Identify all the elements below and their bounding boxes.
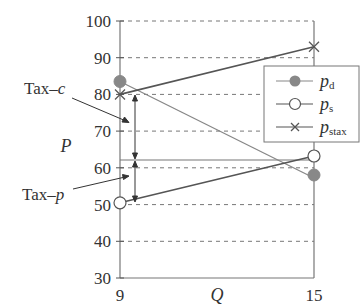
- axes: [120, 21, 314, 278]
- ps-marker-15: [308, 150, 320, 162]
- pd-marker-9: [114, 76, 126, 88]
- y-tick-60: 60: [94, 159, 111, 178]
- y-tick-30: 30: [94, 269, 111, 288]
- legend: pd ps pstax: [264, 66, 359, 142]
- ps-line: [120, 156, 314, 203]
- y-axis-label: P: [60, 136, 72, 156]
- y-tick-40: 40: [94, 232, 111, 251]
- x-axis-label: Q: [211, 285, 224, 305]
- tax-arrows: [133, 95, 138, 202]
- y-tick-80: 80: [94, 85, 111, 104]
- ps-marker-9: [114, 197, 126, 209]
- x-tick-15: 15: [306, 286, 323, 305]
- y-tick-50: 50: [94, 196, 111, 215]
- y-tick-90: 90: [94, 49, 111, 68]
- y-tick-100: 100: [86, 12, 112, 31]
- tax-p-label: Tax–p: [22, 185, 64, 204]
- pd-marker-15: [308, 169, 320, 181]
- price-quantity-chart: 100 90 80 70 60 50 40 30 9 15 Q P T: [0, 0, 362, 308]
- x-tick-9: 9: [116, 286, 125, 305]
- y-tick-70: 70: [94, 122, 111, 141]
- tax-c-label: Tax–c: [24, 79, 66, 98]
- y-tick-labels: 100 90 80 70 60 50 40 30: [86, 12, 112, 288]
